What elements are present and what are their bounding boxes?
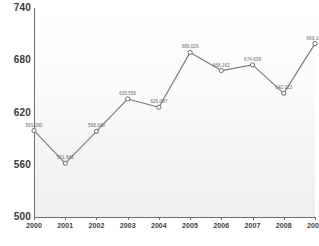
data-label-2001: 561.646 bbox=[57, 155, 74, 160]
data-point-2008[interactable] bbox=[282, 91, 286, 95]
data-point-2009[interactable] bbox=[313, 42, 317, 46]
series-line bbox=[34, 44, 315, 164]
data-label-2007: 674.638 bbox=[244, 57, 261, 62]
line-chart: 740680620560500 200020012002200320042005… bbox=[0, 0, 319, 246]
data-label-2009: 699.100 bbox=[307, 36, 319, 41]
data-label-2004: 626.087 bbox=[150, 99, 167, 104]
data-point-2000[interactable] bbox=[32, 128, 36, 132]
data-label-2005: 689.026 bbox=[182, 44, 199, 49]
data-point-2003[interactable] bbox=[126, 97, 130, 101]
data-label-2003: 635.556 bbox=[119, 91, 136, 96]
data-point-2007[interactable] bbox=[250, 63, 254, 67]
data-point-2005[interactable] bbox=[188, 50, 192, 54]
data-point-2006[interactable] bbox=[219, 68, 223, 72]
data-label-2006: 668.162 bbox=[213, 63, 230, 68]
data-label-2008: 642.023 bbox=[275, 85, 292, 90]
data-point-2004[interactable] bbox=[157, 105, 161, 109]
data-point-2002[interactable] bbox=[94, 129, 98, 133]
data-point-2001[interactable] bbox=[63, 161, 67, 165]
series-markers bbox=[32, 42, 317, 166]
data-label-2002: 598.340 bbox=[88, 123, 105, 128]
series-graphics bbox=[0, 0, 319, 246]
data-label-2000: 599.280 bbox=[26, 123, 43, 128]
